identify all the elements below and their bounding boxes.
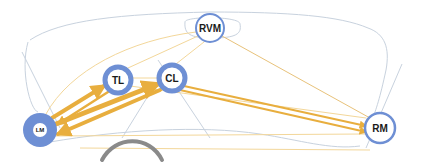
dash-curve	[50, 129, 360, 147]
node-label-tl: TL	[112, 75, 124, 86]
lower-dash-line	[80, 148, 370, 150]
node-label-rvm: RVM	[199, 23, 221, 34]
node-label-rm: RM	[372, 123, 388, 134]
edge-cl-rm	[184, 86, 366, 126]
node-lm[interactable]: LM	[23, 113, 57, 147]
node-rvm[interactable]: RVM	[196, 14, 224, 42]
edges	[46, 32, 370, 136]
node-label-cl: CL	[165, 73, 178, 84]
edge-cl-rvm	[176, 42, 204, 64]
node-cl[interactable]: CL	[159, 65, 185, 91]
edge-rvm-rm	[222, 36, 370, 118]
edge-rvm-tl	[128, 36, 198, 68]
edge-tl-rm	[180, 90, 366, 132]
node-tl[interactable]: TL	[105, 67, 131, 93]
node-label-lm: LM	[36, 127, 45, 133]
dashboard-outline	[25, 42, 38, 112]
gaze-transition-diagram: RVM TL CL LM RM	[0, 0, 421, 164]
steering-wheel-icon	[102, 141, 162, 160]
edge-cl-lm	[58, 90, 160, 134]
node-rm[interactable]: RM	[365, 113, 395, 143]
